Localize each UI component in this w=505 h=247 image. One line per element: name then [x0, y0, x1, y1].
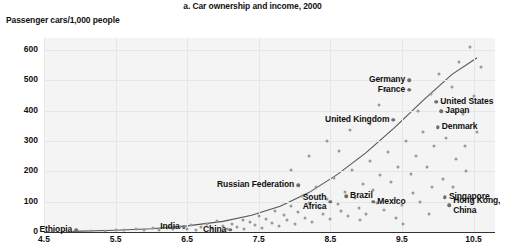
data-point: [230, 223, 233, 226]
y-tick-label: 0: [8, 226, 38, 236]
data-point: [409, 173, 412, 176]
gridline-horizontal: [44, 50, 495, 51]
data-point: [349, 129, 352, 132]
data-point: [451, 85, 454, 88]
data-point: [332, 177, 335, 180]
data-point: [357, 206, 360, 209]
chart-figure: a. Car ownership and income, 2000 Passen…: [0, 0, 505, 247]
y-axis-label: Passenger cars/1,000 people: [6, 15, 120, 25]
data-point: [350, 168, 353, 171]
data-point: [416, 109, 419, 112]
data-point: [431, 186, 434, 189]
data-point: [468, 46, 471, 49]
data-point: [216, 220, 219, 223]
data-point-labeled: [182, 226, 186, 230]
data-point: [264, 217, 267, 220]
data-point: [151, 227, 154, 230]
data-point: [254, 224, 257, 227]
plot-svg: [44, 38, 495, 232]
data-point-labeled: [407, 88, 411, 92]
annotation-label: South Africa: [303, 192, 327, 211]
chart-title: a. Car ownership and income, 2000: [0, 1, 505, 11]
y-tick-label: 500: [8, 74, 38, 84]
data-point: [242, 218, 245, 221]
data-point: [454, 158, 457, 161]
annotation-label: Ethiopia: [39, 226, 72, 236]
data-point: [379, 174, 382, 177]
data-point: [286, 219, 289, 222]
gridline-vertical: [116, 38, 117, 232]
data-point-labeled: [344, 194, 348, 198]
data-point: [378, 103, 381, 106]
trend-curve: [73, 58, 478, 232]
gridline-horizontal: [44, 80, 495, 81]
data-point: [418, 201, 421, 204]
data-point: [289, 168, 292, 171]
data-point: [143, 228, 146, 231]
gridline-horizontal: [44, 141, 495, 142]
data-point: [329, 218, 332, 221]
data-point: [465, 170, 468, 173]
data-point: [390, 180, 393, 183]
y-tick-label: 300: [8, 135, 38, 145]
annotation-label: China: [203, 225, 226, 235]
data-point-labeled: [296, 183, 300, 187]
x-tick-label: 4.5: [38, 234, 50, 244]
data-point: [452, 185, 455, 188]
x-tick-label: 10.5: [465, 234, 482, 244]
data-point: [433, 144, 436, 147]
data-point: [411, 192, 414, 195]
data-point: [257, 215, 260, 218]
data-point: [325, 140, 328, 143]
plot-area: [44, 38, 495, 232]
annotation-label: Denmark: [442, 123, 478, 133]
data-point-labeled: [407, 79, 411, 83]
data-point: [429, 93, 432, 96]
data-point: [425, 165, 428, 168]
data-point: [194, 228, 197, 231]
data-point: [458, 61, 461, 64]
data-point: [442, 177, 445, 180]
data-point-labeled: [329, 200, 333, 204]
gridline-horizontal: [44, 202, 495, 203]
data-point: [304, 217, 307, 220]
data-point: [243, 228, 246, 231]
data-point: [438, 73, 441, 76]
annotation-label: Russian Federation: [217, 180, 294, 190]
data-point: [336, 203, 339, 206]
data-point: [297, 211, 300, 214]
x-tick-label: 7.5: [253, 234, 265, 244]
data-point: [282, 214, 285, 217]
data-point: [340, 210, 343, 213]
data-point: [289, 204, 292, 207]
annotation-label: United Kingdom: [325, 115, 389, 125]
data-point: [383, 209, 386, 212]
data-point: [365, 213, 368, 216]
data-point: [404, 140, 407, 143]
data-point: [368, 159, 371, 162]
data-point: [311, 220, 314, 223]
x-axis-line: [44, 232, 495, 233]
y-tick-label: 600: [8, 44, 38, 54]
data-point-labeled: [436, 126, 440, 130]
data-point: [397, 165, 400, 168]
data-point: [402, 223, 405, 226]
data-point: [359, 219, 362, 222]
data-point: [361, 182, 364, 185]
data-point: [386, 150, 389, 153]
y-tick-label: 400: [8, 105, 38, 115]
data-point: [273, 209, 276, 212]
data-point: [337, 149, 340, 152]
data-point: [463, 144, 466, 147]
annotation-label: Mexico: [377, 197, 405, 207]
gridline-vertical: [187, 38, 188, 232]
data-point: [343, 190, 346, 193]
data-point: [307, 155, 310, 158]
data-point-labeled: [228, 228, 232, 232]
data-point: [134, 227, 137, 230]
data-point: [189, 224, 192, 227]
data-point: [293, 222, 296, 225]
data-point: [422, 130, 425, 133]
annotation-label: Hong Kong, China: [453, 196, 500, 215]
data-point-labeled: [440, 110, 444, 114]
